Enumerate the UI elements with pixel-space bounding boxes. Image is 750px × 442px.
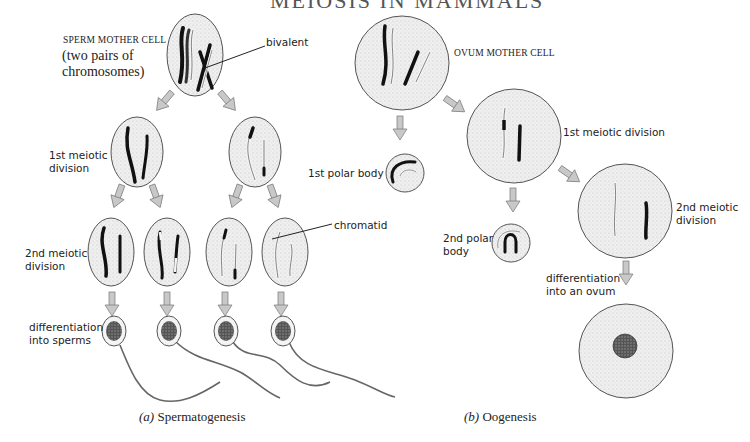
sperm-mother-cell xyxy=(167,14,223,96)
chromatid-label: chromatid xyxy=(334,219,387,232)
arrow xyxy=(441,92,469,117)
ovum xyxy=(579,304,673,398)
ovum-second-division-label: 2nd meiotic division xyxy=(676,201,738,227)
sperm-first-division-cell-left xyxy=(111,117,163,187)
spermatogenesis-caption: (a) Spermatogenesis xyxy=(139,409,246,425)
ovum-first-division-label: 1st meiotic division xyxy=(563,126,665,139)
sperm-mother-cell-sublabel: (two pairs of chromosomes) xyxy=(62,48,144,80)
ovum-mother-cell-label: OVUM MOTHER CELL xyxy=(454,48,555,58)
arrow xyxy=(160,292,174,316)
arrow xyxy=(107,183,128,210)
second-polar-body xyxy=(492,224,530,262)
oogenesis-caption: (b) Oogenesis xyxy=(464,409,537,425)
second-polar-body-label: 2nd polar body xyxy=(443,232,493,258)
bivalent-label: bivalent xyxy=(266,36,308,49)
arrow xyxy=(393,116,407,140)
arrow xyxy=(506,188,520,212)
caption-prefix: (b) xyxy=(464,409,479,424)
sperm-first-division-cell-right xyxy=(229,117,281,187)
sperm-mother-cell-label: SPERM MOTHER CELL xyxy=(63,35,166,45)
arrow xyxy=(105,292,119,316)
sperm-second-division-label: 2nd meiotic division xyxy=(25,247,87,273)
first-polar-body xyxy=(386,154,424,192)
sperm-second-division-cell-2 xyxy=(144,218,190,286)
sperm-second-division-cell-4 xyxy=(262,218,308,286)
caption-prefix: (a) xyxy=(139,409,154,424)
arrow xyxy=(619,261,633,285)
ovum-second-division-cell xyxy=(578,164,672,258)
ovum-mother-cell xyxy=(355,16,449,110)
ovum-first-division-cell xyxy=(467,89,561,183)
caption-text: Spermatogenesis xyxy=(154,409,245,424)
arrow xyxy=(274,292,288,316)
ovum-differentiation-label: differentiation into an ovum xyxy=(546,272,620,298)
sperm-4 xyxy=(271,316,395,397)
arrow xyxy=(145,183,166,210)
sperm-second-division-cell-3 xyxy=(206,218,252,286)
sperm-differentiation-label: differentiation into sperms xyxy=(29,321,103,347)
sperm-first-division-label: 1st meiotic division xyxy=(49,149,107,175)
arrow xyxy=(218,292,232,316)
arrow xyxy=(225,183,246,210)
arrow-right-branch xyxy=(215,88,241,115)
arrow-left-branch xyxy=(151,88,177,115)
arrow xyxy=(263,183,284,210)
arrow xyxy=(556,162,584,187)
caption-text: Oogenesis xyxy=(479,409,536,424)
first-polar-body-label: 1st polar body xyxy=(308,167,384,180)
sperm-second-division-cell-1 xyxy=(88,218,134,286)
